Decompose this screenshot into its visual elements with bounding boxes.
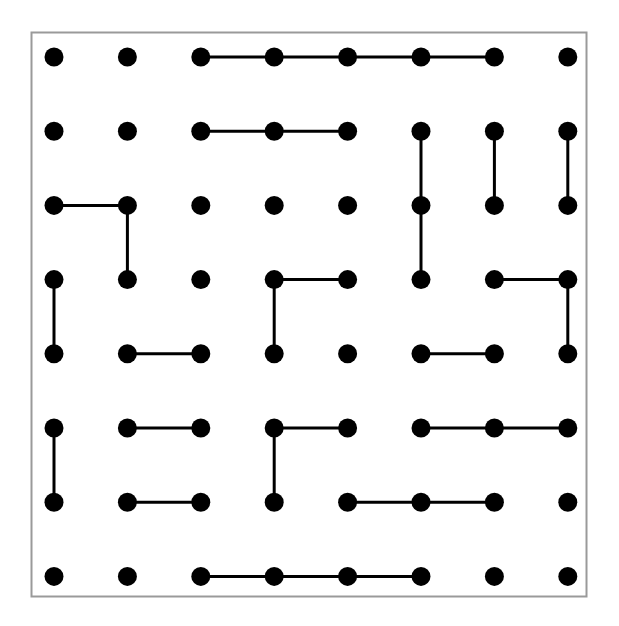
grid-dot xyxy=(265,122,284,141)
grid-dot xyxy=(191,48,210,67)
grid-dot xyxy=(485,344,504,363)
grid-dot xyxy=(265,567,284,586)
grid-dot xyxy=(558,196,577,215)
grid-dot xyxy=(412,419,431,438)
grid-dot xyxy=(485,567,504,586)
grid-dot xyxy=(118,122,137,141)
grid-dot xyxy=(558,48,577,67)
grid-dot xyxy=(191,196,210,215)
grid-dot xyxy=(338,567,357,586)
grid-dot xyxy=(118,493,137,512)
grid-dot xyxy=(118,48,137,67)
grid-dot xyxy=(191,122,210,141)
grid-dot xyxy=(45,122,64,141)
grid-dot xyxy=(412,567,431,586)
dot-grid-diagram xyxy=(0,0,619,626)
grid-dot xyxy=(412,122,431,141)
grid-dot xyxy=(412,344,431,363)
grid-dot xyxy=(338,122,357,141)
grid-dot xyxy=(191,344,210,363)
grid-dot xyxy=(412,270,431,289)
grid-dot xyxy=(338,196,357,215)
grid-dot xyxy=(558,419,577,438)
grid-dot xyxy=(338,270,357,289)
grid-dot xyxy=(191,493,210,512)
grid-dot xyxy=(485,493,504,512)
grid-dot xyxy=(338,48,357,67)
grid-dot xyxy=(338,344,357,363)
grid-dot xyxy=(485,270,504,289)
grid-dot xyxy=(412,196,431,215)
grid-dot xyxy=(118,196,137,215)
grid-border xyxy=(32,33,587,597)
grid-dot xyxy=(265,344,284,363)
grid-dot xyxy=(118,344,137,363)
grid-dot xyxy=(45,196,64,215)
grid-dot xyxy=(265,196,284,215)
grid-dot xyxy=(265,419,284,438)
grid-dot xyxy=(485,48,504,67)
grid-dot xyxy=(118,270,137,289)
grid-dot xyxy=(558,567,577,586)
grid-dot xyxy=(412,493,431,512)
grid-dot xyxy=(191,270,210,289)
grid-dot xyxy=(45,270,64,289)
grid-dot xyxy=(338,493,357,512)
grid-dot xyxy=(191,567,210,586)
grid-dot xyxy=(338,419,357,438)
grid-dot xyxy=(412,48,431,67)
grid-dot xyxy=(45,493,64,512)
grid-dot xyxy=(558,344,577,363)
grid-dot xyxy=(485,419,504,438)
grid-dot xyxy=(45,567,64,586)
grid-dot xyxy=(485,122,504,141)
grid-dot xyxy=(118,419,137,438)
grid-dot xyxy=(558,493,577,512)
grid-dot xyxy=(45,344,64,363)
grid-dot xyxy=(558,270,577,289)
grid-dot xyxy=(265,48,284,67)
grid-dot xyxy=(45,48,64,67)
grid-dot xyxy=(118,567,137,586)
grid-dot xyxy=(45,419,64,438)
grid-dot xyxy=(265,493,284,512)
grid-dot xyxy=(558,122,577,141)
grid-dot xyxy=(485,196,504,215)
grid-dot xyxy=(265,270,284,289)
grid-dot xyxy=(191,419,210,438)
